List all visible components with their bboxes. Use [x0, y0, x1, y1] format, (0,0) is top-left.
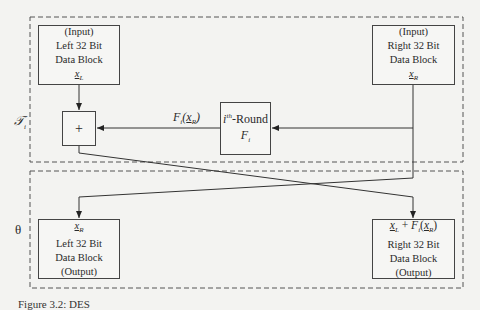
- right-output-block: xL + Fi(xR) Right 32 Bit Data Block (Out…: [372, 219, 455, 279]
- right-input-block: (Input) Right 32 Bit Data Block xR: [372, 25, 455, 85]
- figure-caption: Figure 3.2: DES: [18, 298, 90, 310]
- right-input-title: Right 32 Bit: [388, 39, 440, 53]
- adder-to-right-output: [79, 146, 413, 218]
- round-region-label: 𝒯i: [14, 113, 26, 131]
- right-input-tag: (Input): [399, 25, 428, 39]
- right-output-expression: xL + Fi(xR): [390, 218, 437, 237]
- left-output-block: xR Left 32 Bit Data Block (Output): [38, 219, 120, 279]
- round-function-name: Fi: [241, 127, 250, 148]
- round-output-label: Fi(xR): [173, 110, 200, 126]
- left-output-title: Left 32 Bit: [56, 237, 102, 251]
- left-input-subtitle: Data Block: [55, 53, 103, 67]
- left-input-block: (Input) Left 32 Bit Data Block xL: [38, 25, 120, 85]
- right-to-left-output: [79, 178, 413, 218]
- right-output-title: Right 32 Bit: [388, 238, 440, 252]
- round-function-title: ith-Round: [223, 108, 268, 127]
- swap-region-label: θ: [15, 222, 21, 238]
- left-output-var: xR: [75, 219, 84, 237]
- left-input-tag: (Input): [64, 25, 93, 39]
- right-output-subtitle: Data Block: [390, 252, 438, 266]
- left-input-var: xL: [75, 67, 84, 85]
- right-input-subtitle: Data Block: [390, 53, 438, 67]
- right-output-tag: (Output): [395, 266, 431, 280]
- left-output-tag: (Output): [61, 265, 97, 279]
- left-output-subtitle: Data Block: [55, 251, 103, 265]
- left-input-title: Left 32 Bit: [56, 39, 102, 53]
- plus-symbol: +: [75, 122, 83, 136]
- right-input-var: xR: [409, 67, 418, 85]
- round-function-block: ith-Round Fi: [220, 102, 271, 155]
- xor-adder-block: +: [62, 111, 96, 146]
